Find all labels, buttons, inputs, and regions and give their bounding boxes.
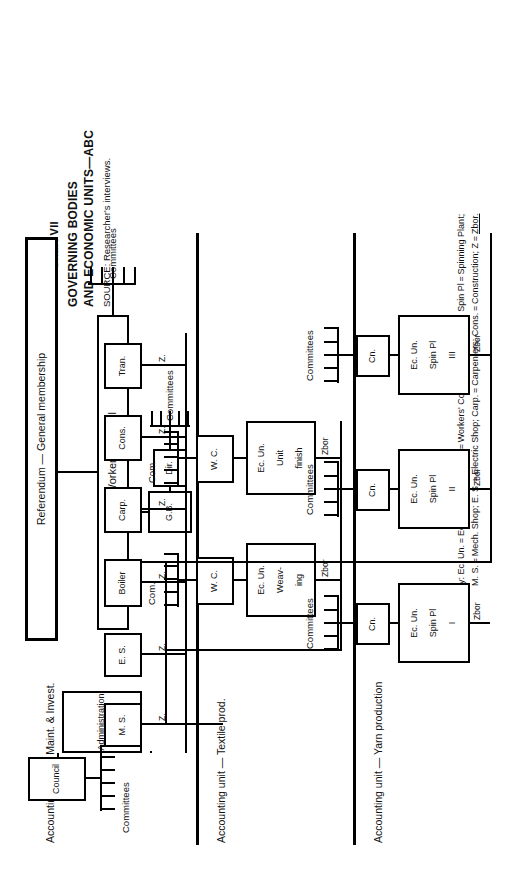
yarn-unit-1-line1: Ec. Un. [410,474,419,504]
textile-unit-1-line1: Ec. Un. [257,443,266,473]
department-box-5: Tran. [104,343,142,389]
yarn-unit-box-2: Ec. Un. Spin Pl III [398,315,470,395]
department-label-3: Carp. [118,499,127,521]
department-box-4: Cons. [104,415,142,461]
key-line-1: Key: Ec. Un. = Economic Unit; W. C. = Wo… [455,214,467,595]
textile-council-box-1: W. C. [196,435,234,483]
yarn-unit-label-2: Ec. Un. Spin Pl III [410,340,457,370]
zbor-label-yarn-0: Zbor [472,603,482,620]
referendum-label: Referendum — General membership [36,353,47,525]
link-admin-council [57,753,59,757]
accounting-unit-yarn-label: Accounting unit — Yarn production [372,682,384,843]
link-department-0 [142,723,185,725]
zbor-label-yarn-2: Zbor [472,335,482,352]
link-yarn-unit-2-bus [470,354,490,356]
link-yarn-unit-1-bus [470,488,490,490]
zbor-label-yarn-1: Zbor [472,469,482,486]
link-gb-dir [169,487,171,491]
textile-unit-1-line2: Unit [276,443,285,473]
department-label-1: E. S. [118,645,127,665]
link-cwc-committees [112,285,114,315]
department-box-3: Carp. [104,487,142,533]
yarn-unit-box-0: Ec. Un. Spin Pl I [398,583,470,663]
key-line-2: M. S. = Mech. Shop; E. S. = Electric Sho… [469,214,481,586]
yarn-council-box-1: Cn. [356,469,390,511]
committees-label-yarn-2: Committees [304,330,315,381]
department-box-1: E. S. [104,633,142,677]
committees-label-textile-0: Com. [146,582,157,605]
key-zbor-underlined: Zbor. [470,214,480,235]
yarn-unit-label-1: Ec. Un. Spin Pl II [410,474,457,504]
link-textile-council-committees-0 [178,579,196,581]
z-label-5: Z. [157,354,167,362]
accounting-unit-textile-label: Accounting unit — Textile prod. [215,698,227,843]
link-yarn-unit-council-2 [390,354,398,356]
link-trunk-yarn-bus [165,561,490,563]
yarn-unit-label-0: Ec. Un. Spin Pl I [410,608,457,638]
link-referendum-cwc [58,471,97,473]
z-label-3: Z. [157,498,167,506]
textile-council-label-1: W. C. [210,448,219,470]
dir-label: Dir. [165,461,174,475]
committees-label-yarn-0: Committees [304,598,315,649]
committees-comb-cwc [88,283,136,285]
noop2 [150,751,152,753]
yarn-unit-1-line2: Spin Pl [429,474,438,504]
council-box: Council [28,757,86,801]
chart-canvas-rotated: Chart VII GOVERNING BODIES AND ECONOMIC … [0,0,515,873]
textile-unit-label-1: Ec. Un. Unit finish [257,443,304,473]
council-label: Council [52,764,61,794]
yarn-unit-1-line3: II [448,474,457,504]
yarn-bus [490,233,492,563]
link-trunk-textile-bus [165,649,340,651]
link-textile-unit-council-1 [234,457,246,459]
committees-label-cwc: Committees [107,228,118,279]
yarn-unit-0-line3: I [448,608,457,638]
yarn-council-label-0: Cn. [368,617,377,631]
link-textile-unit-council-0 [234,579,246,581]
yarn-unit-0-line1: Ec. Un. [410,608,419,638]
yarn-council-box-2: Cn. [356,335,390,377]
yarn-unit-2-line2: Spin Pl [429,340,438,370]
department-label-0: M. S. [118,715,127,736]
divider-maint-textile [196,233,199,845]
department-box-0: M. S. [104,703,142,747]
zbor-label-textile-1: Zbor [320,438,330,455]
textile-unit-0-line3: ing [295,565,304,595]
link-yarn-council-committees-0 [338,622,356,624]
textile-council-label-0: W. C. [210,570,219,592]
department-label-5: Tran. [118,356,127,377]
yarn-council-label-2: Cn. [368,349,377,363]
link-textile-unit-0-bus [316,579,340,581]
committees-text-council: Committees [120,782,131,833]
committees-label-textile-1: Com. [146,460,157,483]
link-yarn-unit-council-1 [390,488,398,490]
textile-unit-label-0: Ec. Un. Weav- ing [257,565,304,595]
department-box-2: Boiler [104,559,142,607]
chart-canvas: Chart VII GOVERNING BODIES AND ECONOMIC … [0,0,515,873]
yarn-unit-2-line1: Ec. Un. [410,340,419,370]
key-line-2-text: M. S. = Mech. Shop; E. S. = Electric Sho… [470,234,480,586]
textile-council-box-0: W. C. [196,557,234,605]
department-label-2: Boiler [118,572,127,595]
divider-textile-yarn [353,233,356,845]
textile-unit-0-line2: Weav- [276,565,285,595]
link-department-1 [142,653,185,655]
yarn-council-label-1: Cn. [368,483,377,497]
link-yarn-council-committees-1 [338,488,356,490]
chart-title-line1: GOVERNING BODIES [66,181,80,307]
committees-label-council: Committees [120,782,131,833]
link-yarn-unit-0-bus [470,622,490,624]
department-label-4: Cons. [118,426,127,450]
chart-title-line2: AND ECONOMIC UNITS—ABC [82,130,96,307]
referendum-box: Referendum — General membership [25,237,58,641]
yarn-unit-2-line3: III [448,340,457,370]
committees-label-yarn-1: Committees [304,464,315,515]
textile-bus [340,421,342,651]
link-department-3 [142,508,185,510]
textile-unit-0-line1: Ec. Un. [257,565,266,595]
committees-label-gb: Committees [164,370,175,421]
link-yarn-unit-council-0 [390,622,398,624]
link-textile-council-committees-1 [178,457,196,459]
link-department-5 [142,364,185,366]
